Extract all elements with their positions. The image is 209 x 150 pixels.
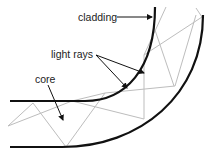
optical-fiber-diagram: cladding light rays core <box>0 0 209 150</box>
cladding-label: cladding <box>78 11 117 23</box>
light-rays-arrow-1 <box>96 55 144 73</box>
core-label: core <box>35 73 56 85</box>
core-arrow <box>48 85 63 120</box>
light-rays-arrow-2 <box>96 55 127 88</box>
light-ray-path-5 <box>155 30 174 86</box>
light-rays-label: light rays <box>51 48 93 60</box>
